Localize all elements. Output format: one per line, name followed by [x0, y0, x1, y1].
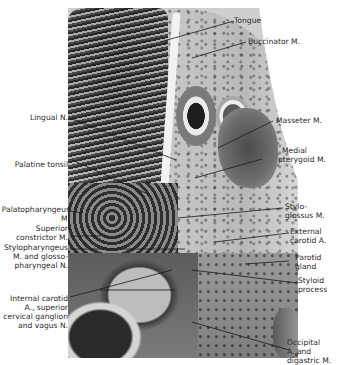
label-tongue: Tongue: [234, 16, 261, 25]
label-masseter: Masseter M.: [276, 116, 322, 125]
label-styloid-process: Styloid process: [298, 276, 327, 294]
histology-figure: Tongue Buccinator M. Masseter M. Medial …: [0, 0, 344, 365]
label-occipital-artery: Occipital A. and digastric M.: [287, 338, 331, 365]
label-lingual-nerve: Lingual N.: [30, 113, 68, 122]
label-buccinator: Buccinator M.: [248, 37, 300, 46]
label-external-carotid: External carotid A.: [290, 227, 326, 245]
label-styloglossus: Stylo- glossus M.: [285, 202, 325, 220]
label-medial-pterygoid: Medial pterygoid M.: [282, 146, 326, 164]
label-palatine-tonsil: Palatine tonsil: [15, 160, 68, 169]
label-superior-constrictor: Superior constrictor M.: [16, 224, 68, 242]
label-palatopharyngeus: Palatopharyngeus M.: [2, 205, 70, 223]
label-parotid-gland: Parotid gland: [295, 253, 321, 271]
label-internal-carotid: Internal carotid A., superior cervical g…: [3, 294, 68, 330]
label-stylopharyngeus: Stylopharyngeus M. and glosso- pharyngea…: [4, 243, 68, 270]
